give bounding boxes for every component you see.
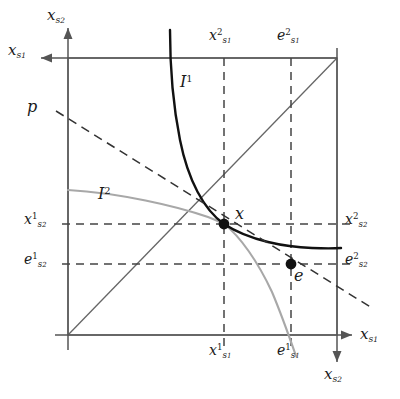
point-x-marker xyxy=(219,219,230,230)
diagram-canvas xyxy=(0,0,400,399)
axis-origin2-x xyxy=(41,54,337,63)
axis-label-top-left-x: xs1 xyxy=(8,43,26,59)
point-label-e: e xyxy=(294,268,303,284)
curve-label-i2: I2 xyxy=(98,186,111,202)
indifference-curve-1-path xyxy=(170,30,341,248)
axis-label-top-left-y: xs2 xyxy=(47,8,65,24)
tick-label-x1-s2: x1s2 xyxy=(24,212,46,229)
axis-label-bottom-right-x: xs1 xyxy=(360,327,378,343)
axis-label-bottom-right-y: xs2 xyxy=(324,367,342,383)
axis-origin1-x xyxy=(55,331,352,340)
tick-label-e2-s2: e2s2 xyxy=(345,252,368,269)
point-label-x: x xyxy=(235,206,244,222)
tick-label-e2-s1: e2s1 xyxy=(277,28,300,45)
tick-label-e1-s2: e1s2 xyxy=(24,252,47,269)
tick-label-e1-s1: e1s1 xyxy=(277,343,300,360)
edgeworth-box-figure: xs1 xs2 xs1 xs2 x2s1 e2s1 x1s1 e1s1 x1s2… xyxy=(0,0,400,399)
indifference-curve-2-path xyxy=(68,190,296,356)
axis-origin1-y xyxy=(333,48,342,362)
tick-label-x2-s2: x2s2 xyxy=(345,212,367,229)
price-line-label: p xyxy=(27,99,37,115)
price-line-path xyxy=(56,111,372,308)
tick-label-x1-s1: x1s1 xyxy=(209,343,231,360)
tick-label-x2-s1: x2s1 xyxy=(209,28,231,45)
curve-label-i1: I1 xyxy=(180,74,193,90)
